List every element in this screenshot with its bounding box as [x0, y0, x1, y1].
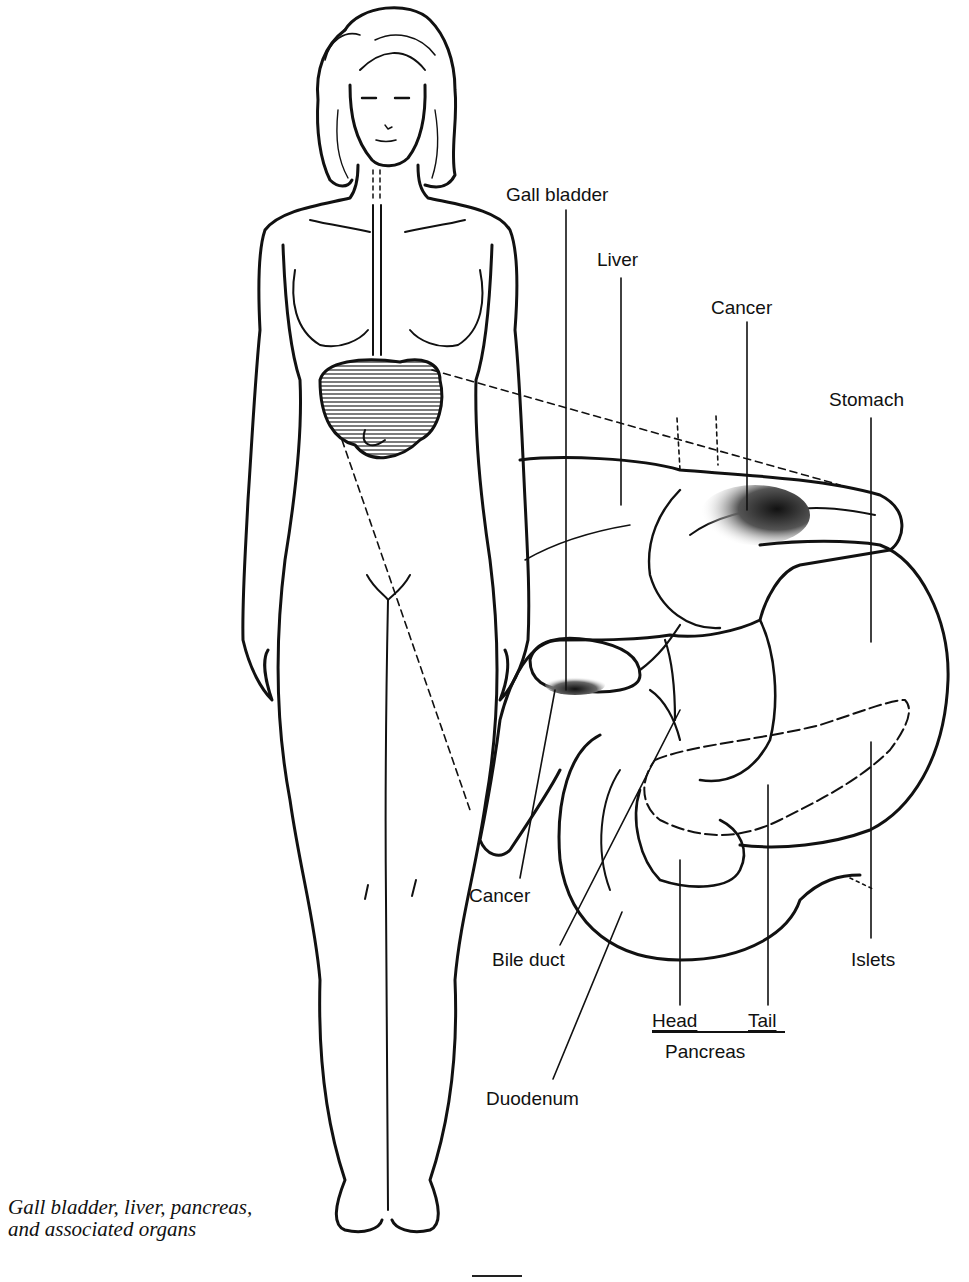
figure-head	[317, 8, 455, 187]
torso-organs	[320, 360, 442, 458]
label-pancreas-tail: Tail	[748, 1011, 777, 1030]
label-duodenum: Duodenum	[486, 1089, 579, 1108]
anatomy-illustration	[0, 0, 969, 1282]
head-tail-underline	[652, 1031, 785, 1033]
caption-line-2: and associated organs	[8, 1218, 252, 1240]
label-bile-duct: Bile duct	[492, 950, 565, 969]
figure-body	[243, 165, 529, 1232]
label-pancreas: Pancreas	[665, 1042, 745, 1061]
caption-line-1: Gall bladder, liver, pancreas,	[8, 1196, 252, 1218]
label-stomach: Stomach	[829, 390, 904, 409]
label-cancer-liver: Cancer	[711, 298, 772, 317]
label-gall-bladder: Gall bladder	[506, 185, 608, 204]
label-cancer-gall-bladder: Cancer	[469, 886, 530, 905]
label-pancreas-head: Head	[652, 1011, 697, 1030]
leader-lines	[520, 210, 871, 1079]
label-liver: Liver	[597, 250, 638, 269]
page-footer-rule	[472, 1275, 522, 1277]
figure-caption: Gall bladder, liver, pancreas, and assoc…	[8, 1196, 252, 1240]
label-islets: Islets	[851, 950, 895, 969]
